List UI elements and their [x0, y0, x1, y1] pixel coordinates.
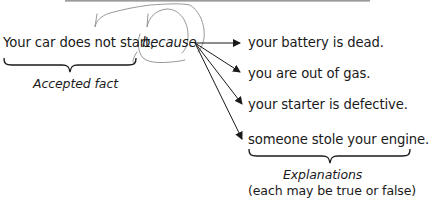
- explanations-note: (each may be true or false): [248, 183, 416, 199]
- accepted-fact-label: Accepted fact: [33, 76, 118, 92]
- arrow-to-explanation-3: [195, 43, 242, 104]
- accepted-fact-brace: [4, 58, 136, 72]
- explanation-3: your starter is defective.: [248, 97, 408, 113]
- explanation-2: you are out of gas.: [248, 66, 370, 82]
- premise-text: Your car does not start,: [3, 35, 154, 51]
- arrow-to-explanation-4: [195, 43, 242, 139]
- explanation-arrows: [195, 43, 242, 139]
- explanation-4: someone stole your engine.: [248, 132, 429, 148]
- scribble-annotation: [95, 4, 204, 64]
- explanation-1: your battery is dead.: [248, 35, 384, 51]
- explanations-label: Explanations: [283, 167, 362, 183]
- explanations-brace: [249, 149, 410, 163]
- connector-because: because: [142, 35, 196, 51]
